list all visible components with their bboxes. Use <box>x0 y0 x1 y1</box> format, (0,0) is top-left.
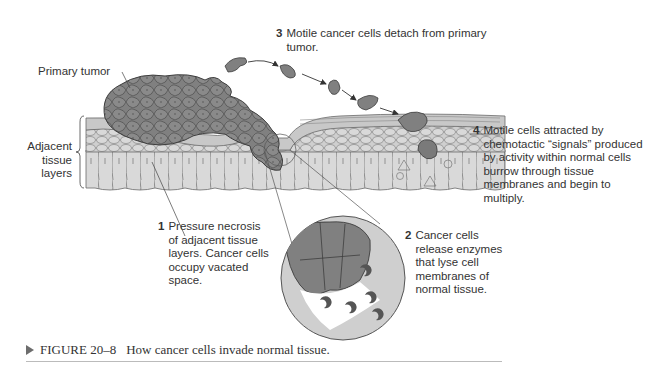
step-2: 2 Cancer cells release enzymes that lyse… <box>405 229 502 297</box>
step-4: 4 Motile cells attracted by chemotactic … <box>473 124 643 205</box>
adjacent-tissue-label: Adjacent tissue layers <box>20 140 72 181</box>
step-3-text: Motile cancer cells detach from primary … <box>286 27 486 54</box>
figure-number: FIGURE 20–8 <box>40 342 116 358</box>
brace-icon <box>76 116 84 188</box>
step-2-text: Cancer cells release enzymes that lyse c… <box>415 229 502 297</box>
figure-caption: FIGURE 20–8 How cancer cells invade norm… <box>26 342 330 358</box>
caption-rule <box>26 361 502 362</box>
step-1: 1 Pressure necrosis of adjacent tissue l… <box>158 220 269 288</box>
step-1-text: Pressure necrosis of adjacent tissue lay… <box>168 220 268 288</box>
step-3: 3 Motile cancer cells detach from primar… <box>276 27 486 54</box>
caption-text: How cancer cells invade normal tissue. <box>126 342 330 358</box>
primary-tumor-label: Primary tumor <box>38 65 110 79</box>
triangle-marker-icon <box>26 345 34 355</box>
step-4-text: Motile cells attracted by chemotactic “s… <box>483 124 642 205</box>
